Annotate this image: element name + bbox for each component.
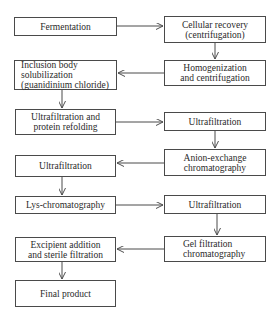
node-label: Ultrafiltration [189, 117, 242, 127]
node-ultrafiltration-4: Ultrafiltration [164, 195, 266, 214]
node-excipient-addition: Excipient addition and sterile filtratio… [15, 237, 116, 262]
node-label: Ultrafiltration and protein refolding [31, 112, 100, 132]
node-homogenization: Homogenization and centrifugation [164, 60, 266, 86]
node-label: Cellular recovery (centrifugation) [182, 20, 248, 40]
node-inclusion-body-solubilization: Inclusion body solubilization (guanidini… [14, 60, 117, 90]
node-label: Homogenization and centrifugation [180, 63, 249, 83]
node-gel-filtration: Gel filtration chromatography [164, 236, 266, 262]
node-fermentation: Fermentation [14, 17, 117, 36]
node-lys-chromatography: Lys-chromatography [15, 196, 116, 214]
node-ultrafiltration-3: Ultrafiltration [15, 155, 116, 177]
node-label: Anion-exchange chromatography [184, 153, 247, 173]
node-label: Inclusion body solubilization (guanidini… [21, 60, 109, 90]
node-ultrafiltration-2: Ultrafiltration [164, 112, 266, 131]
node-cellular-recovery: Cellular recovery (centrifugation) [164, 16, 266, 43]
node-ultrafiltration-refolding: Ultrafiltration and protein refolding [15, 109, 116, 135]
node-label: Ultrafiltration [39, 161, 92, 171]
node-label: Lys-chromatography [26, 200, 105, 210]
node-anion-exchange: Anion-exchange chromatography [164, 149, 266, 176]
node-label: Gel filtration chromatography [183, 239, 245, 259]
node-label: Fermentation [40, 22, 91, 32]
node-label: Excipient addition and sterile filtratio… [28, 240, 103, 260]
node-label: Ultrafiltration [189, 200, 242, 210]
node-final-product: Final product [15, 280, 116, 307]
node-label: Final product [40, 289, 91, 299]
